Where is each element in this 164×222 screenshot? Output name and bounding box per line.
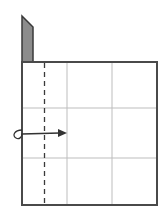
shaded-flap [22,16,33,62]
arrowhead-icon [58,129,67,137]
origami-diagram [0,0,164,222]
